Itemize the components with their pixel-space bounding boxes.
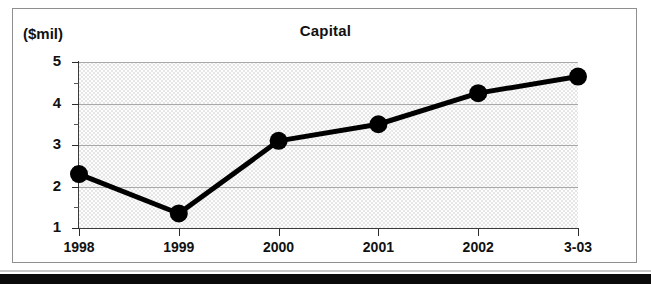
x-axis-label: 2000 xyxy=(234,239,324,255)
x-axis-label: 1998 xyxy=(34,239,124,255)
y-axis-label: 2 xyxy=(21,177,61,194)
y-gridline xyxy=(79,187,578,188)
x-axis-label: 2002 xyxy=(433,239,523,255)
y-axis-tick xyxy=(72,104,79,105)
y-axis-tick xyxy=(72,187,79,188)
y-axis-label: 3 xyxy=(21,135,61,152)
y-axis-label: 1 xyxy=(21,218,61,235)
x-axis-tick xyxy=(378,229,379,236)
scan-edge-line xyxy=(0,270,651,272)
x-axis-line xyxy=(78,228,579,229)
y-axis-tick xyxy=(72,145,79,146)
y-axis-tick xyxy=(72,228,79,229)
x-axis-tick xyxy=(79,229,80,236)
x-axis-tick xyxy=(279,229,280,236)
x-axis-label: 3-03 xyxy=(533,239,623,255)
y-gridline xyxy=(79,145,578,146)
x-axis-tick xyxy=(578,229,579,236)
y-axis-minor-tick xyxy=(74,207,79,208)
chart-title: Capital xyxy=(0,22,651,39)
y-axis-label: 4 xyxy=(21,94,61,111)
y-gridline xyxy=(79,104,578,105)
x-axis-label: 2001 xyxy=(333,239,423,255)
chart-screenshot: ($mil) Capital 1234519981999200020012002… xyxy=(0,0,651,284)
scan-black-bar xyxy=(0,274,651,284)
x-axis-tick xyxy=(179,229,180,236)
y-axis-tick xyxy=(72,62,79,63)
y-axis-minor-tick xyxy=(74,83,79,84)
x-axis-tick xyxy=(478,229,479,236)
y-axis-minor-tick xyxy=(74,166,79,167)
x-axis-label: 1999 xyxy=(134,239,224,255)
y-axis-label: 5 xyxy=(21,52,61,69)
y-axis-minor-tick xyxy=(74,124,79,125)
y-gridline xyxy=(79,62,578,63)
